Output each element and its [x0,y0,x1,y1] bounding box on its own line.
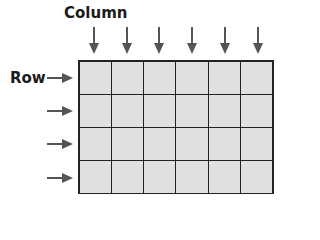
grid-cell [240,160,273,194]
grid-cell [143,61,176,95]
row-arrow-icon [47,173,73,183]
grid [78,60,274,194]
grid-cell [111,61,144,95]
grid-cell [79,94,112,128]
grid-cell [79,127,112,161]
row-arrow-icon [47,106,73,116]
grid-cell [175,127,208,161]
grid-cell [111,127,144,161]
column-arrow-icon [187,27,197,54]
grid-cell [240,94,273,128]
grid-cell [240,61,273,95]
grid-cell [208,127,241,161]
column-arrow-icon [253,27,263,54]
column-arrow-icon [220,27,230,54]
grid-cell [175,94,208,128]
column-arrow-icon [154,27,164,54]
grid-cell [175,160,208,194]
grid-cell [208,94,241,128]
grid-cell [143,160,176,194]
grid-cell [143,127,176,161]
column-arrow-icon [89,27,99,54]
grid-cell [208,61,241,95]
grid-cell [111,160,144,194]
grid-cell [143,94,176,128]
grid-cell [79,160,112,194]
grid-cell [208,160,241,194]
grid-cell [175,61,208,95]
grid-cell [240,127,273,161]
column-arrow-icon [122,27,132,54]
row-arrow-icon [47,73,73,83]
grid-cell [79,61,112,95]
row-arrow-icon [47,139,73,149]
grid-cell [111,94,144,128]
